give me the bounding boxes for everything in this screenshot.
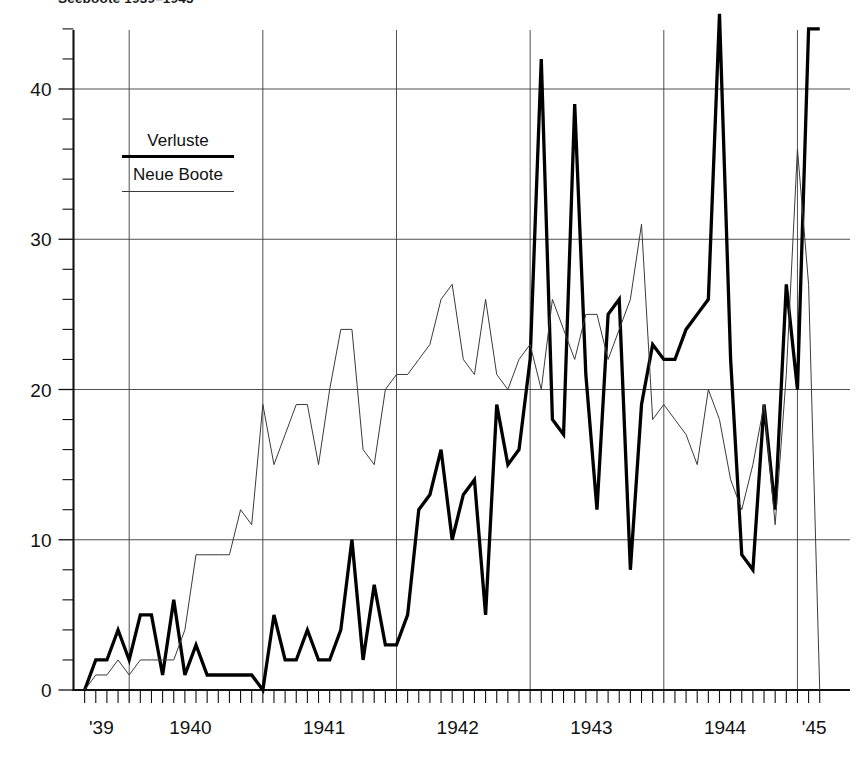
x-axis-label-1939: '39 [89,717,114,738]
legend-label-verluste: Verluste [118,128,238,153]
chart-legend: Verluste Neue Boote [118,128,238,192]
y-axis-label-0: 0 [41,680,52,701]
x-axis-label-1941: 1941 [303,717,345,738]
series-line-verluste [85,14,820,690]
x-axis-label-1945: '45 [802,717,827,738]
x-axis-label-1944: 1944 [704,717,747,738]
y-axis-labels: 010203040 [30,79,51,701]
x-axis-label-1942: 1942 [437,717,479,738]
x-axis-labels: '3919401941194219431944'45 [89,717,827,738]
x-axis-label-1943: 1943 [570,717,612,738]
y-axis-label-10: 10 [30,530,51,551]
x-tick-group [85,690,820,703]
x-axis-label-1940: 1940 [169,717,211,738]
legend-label-neue-boote: Neue Boote [118,162,238,187]
chart-plot-area: 010203040 '3919401941194219431944'45 [0,0,858,764]
chart-page: Seeboote 1939–1945 010203040 '3919401941… [0,0,858,764]
y-axis-label-20: 20 [30,380,51,401]
y-axis-label-40: 40 [30,79,51,100]
series-group [85,14,820,690]
y-axis-label-30: 30 [30,229,51,250]
y-tick-group [59,29,74,690]
legend-swatch-verluste-thick-line [122,155,234,158]
legend-swatch-neue-boote-thin-line [122,191,234,192]
